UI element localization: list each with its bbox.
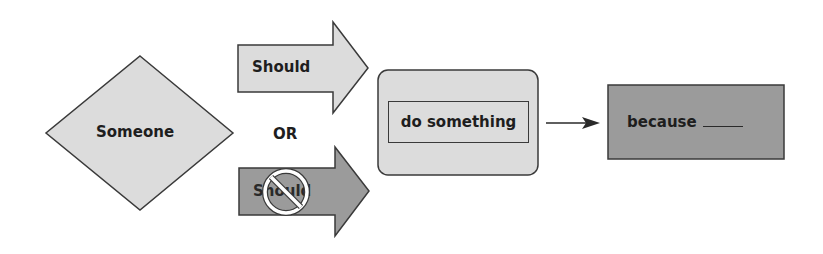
because-text: because: [627, 113, 697, 131]
or-label: OR: [273, 127, 297, 142]
action-inner-box: do something: [388, 101, 529, 143]
action-label: do something: [401, 115, 517, 130]
someone-label: Someone: [96, 125, 174, 140]
should-label: Should: [252, 60, 310, 75]
reason-label: because: [627, 115, 743, 130]
fill-in-blank: [703, 125, 743, 127]
should-not-label: Should: [253, 184, 311, 199]
arrow-right-icon: [546, 117, 600, 129]
